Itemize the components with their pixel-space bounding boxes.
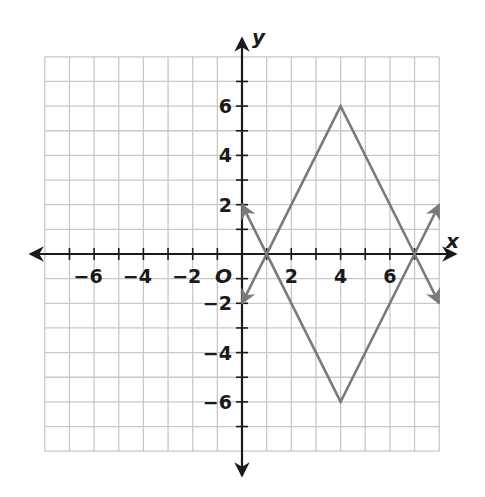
y-tick-label: −4: [203, 342, 232, 364]
x-tick-label: −6: [74, 265, 103, 287]
y-tick-label: 6: [219, 95, 232, 117]
x-tick-label: −4: [123, 265, 152, 287]
y-tick-label: 2: [219, 194, 232, 216]
x-tick-label: 6: [383, 265, 396, 287]
x-tick-label: 2: [285, 265, 298, 287]
y-tick-label: −6: [203, 391, 232, 413]
x-tick-label: −2: [172, 265, 201, 287]
y-tick-label: −2: [203, 292, 232, 314]
x-axis-label: x: [445, 229, 460, 253]
x-tick-label: 4: [334, 265, 347, 287]
coordinate-plane: −6−4−2246642−2−4−6Oxy: [0, 0, 485, 497]
y-tick-label: 4: [219, 144, 232, 166]
y-axis-label: y: [252, 25, 266, 49]
origin-label: O: [215, 264, 232, 288]
